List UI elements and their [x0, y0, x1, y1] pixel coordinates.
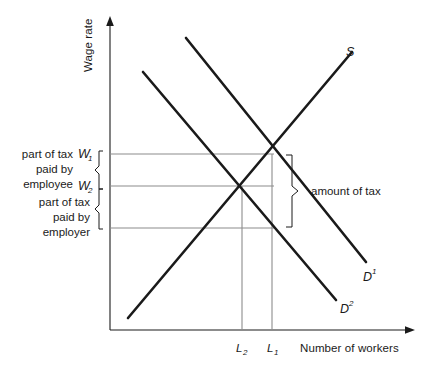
curves-group	[128, 38, 366, 318]
w2-subscript: 2	[87, 186, 93, 195]
bracket-employer-share	[95, 189, 103, 229]
l2-base: L	[236, 342, 242, 354]
quantity-label-l2: L 2	[236, 342, 248, 357]
tax-incidence-diagram: Wage rate Number of workers S D 1 D 2 W …	[0, 0, 431, 371]
annotation-amount-of-tax: amount of tax	[311, 185, 381, 197]
employee-share-line-3: employee	[23, 178, 73, 190]
employee-share-line-2: paid by	[36, 163, 73, 175]
y-axis-label: Wage rate	[82, 18, 94, 72]
employer-share-line-2: paid by	[53, 211, 90, 223]
wage-label-w1: W 1	[78, 147, 92, 163]
demand2-label-text: D	[340, 302, 349, 316]
annotation-employer-share: part of tax paid by employer	[39, 196, 90, 238]
demand1-label-text: D	[363, 270, 372, 284]
employer-share-line-3: employer	[43, 226, 90, 238]
supply-curve-label: S	[346, 45, 355, 59]
l2-subscript: 2	[242, 348, 248, 357]
x-axis-label: Number of workers	[300, 342, 399, 354]
demand2-curve-label: D 2	[340, 299, 354, 316]
y-axis-arrowhead	[106, 16, 114, 26]
employee-share-line-1: part of tax	[22, 148, 73, 160]
labour-market-tax-chart: Wage rate Number of workers S D 1 D 2 W …	[0, 0, 431, 371]
quantity-label-l1: L 1	[267, 342, 278, 357]
annotation-employee-share: part of tax paid by employee	[22, 148, 73, 190]
x-axis-arrowhead	[405, 326, 415, 334]
demand1-curve-label: D 1	[363, 267, 376, 284]
demand2-label-superscript: 2	[348, 299, 354, 308]
bracket-employee-share	[95, 151, 103, 189]
l1-subscript: 1	[274, 348, 278, 357]
supply-label-text: S	[346, 45, 355, 59]
employer-share-line-1: part of tax	[39, 196, 90, 208]
wage-label-w2: W 2	[78, 179, 93, 195]
axes-group	[106, 16, 415, 334]
demand1-label-superscript: 1	[372, 267, 376, 276]
w1-subscript: 1	[88, 154, 92, 163]
l1-base: L	[267, 342, 273, 354]
